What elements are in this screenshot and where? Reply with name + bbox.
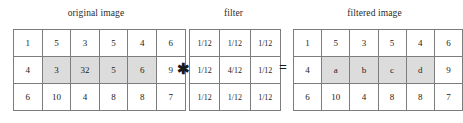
original-image-caption: original image [13,8,179,18]
grid-cell: 7 [156,84,185,111]
grid-row: 6104887 [14,84,186,111]
grid-cell: 4/12 [220,57,250,84]
grid-cell: 10 [42,84,71,111]
filtered-image-caption: filtered image [293,8,456,18]
grid-cell: 1 [14,30,43,57]
grid-cell: 5 [42,30,71,57]
grid-cell: d [406,57,434,84]
grid-cell: b [350,57,378,84]
grid-row: 153546 [294,30,463,57]
grid-cell: 8 [128,84,157,111]
grid-row: 4332569 [14,57,186,84]
convolution-operator-icon: ✱ [176,62,190,77]
grid-cell: 3 [42,57,71,84]
grid-cell: 3 [71,30,100,57]
grid-cell: 32 [71,57,100,84]
equals-operator-icon: = [276,61,290,75]
grid-cell: 1/12 [190,30,220,57]
grid-cell: 7 [434,84,462,111]
grid-row: 1/121/121/12 [190,84,281,111]
grid-cell: 6 [156,30,185,57]
grid-cell: 1/12 [220,30,250,57]
grid-cell: 4 [294,57,322,84]
grid-cell: a [322,57,350,84]
grid-cell: c [378,57,406,84]
grid-cell: 1/12 [250,84,280,111]
filtered-image-grid: 1535464abcd96104887 [293,29,463,111]
grid-cell: 3 [350,30,378,57]
grid-cell: 4 [406,30,434,57]
grid-cell: 4 [14,57,43,84]
grid-cell: 1 [294,30,322,57]
grid-cell: 10 [322,84,350,111]
grid-cell: 1/12 [250,30,280,57]
grid-row: 153546 [14,30,186,57]
grid-cell: 1/12 [220,84,250,111]
grid-cell: 1/12 [190,57,220,84]
grid-cell: 6 [128,57,157,84]
grid-row: 4abcd9 [294,57,463,84]
grid-cell: 6 [14,84,43,111]
grid-cell: 5 [99,57,128,84]
grid-cell: 6 [294,84,322,111]
grid-cell: 8 [99,84,128,111]
grid-row: 6104887 [294,84,463,111]
grid-cell: 9 [434,57,462,84]
filter-kernel-grid: 1/121/121/121/124/121/121/121/121/12 [189,29,281,111]
grid-cell: 4 [71,84,100,111]
grid-row: 1/121/121/12 [190,30,281,57]
grid-cell: 8 [406,84,434,111]
grid-cell: 4 [128,30,157,57]
grid-cell: 8 [378,84,406,111]
grid-cell: 5 [322,30,350,57]
grid-cell: 6 [434,30,462,57]
grid-cell: 1/12 [190,84,220,111]
grid-cell: 5 [99,30,128,57]
grid-row: 1/124/121/12 [190,57,281,84]
grid-cell: 4 [350,84,378,111]
filter-caption: filter [189,8,278,18]
convolution-figure: original image filter filtered image 153… [0,0,463,123]
original-image-grid: 15354643325696104887 [13,29,186,111]
grid-cell: 5 [378,30,406,57]
